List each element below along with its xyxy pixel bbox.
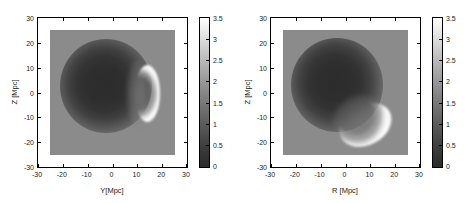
xticklabel-left-6: 30 — [182, 171, 190, 178]
xticklabel-right-1: -20 — [290, 171, 300, 178]
xtick-top-left-1 — [63, 18, 64, 21]
xtick-left-1 — [63, 164, 64, 167]
xtick-left-5 — [162, 164, 163, 167]
yticklabel-left-0: 30 — [16, 15, 34, 22]
ytick-left-3 — [38, 93, 41, 94]
cbar-tick-left-3 — [206, 81, 209, 82]
xticklabel-right-5: 20 — [390, 171, 398, 178]
ytick-left-5 — [38, 142, 41, 143]
xtick-top-right-4 — [370, 18, 371, 21]
ytick-right-2 — [271, 68, 274, 69]
cbar-tick-right-5 — [439, 124, 442, 125]
ytick-right-left-2 — [184, 68, 187, 69]
xtick-right-1 — [296, 164, 297, 167]
cbar-tick-right-6 — [439, 145, 442, 146]
xtick-left-2 — [88, 164, 89, 167]
xtick-right-5 — [395, 164, 396, 167]
yticklabel-right-2: 10 — [249, 64, 267, 71]
yticklabel-left-1: 20 — [16, 39, 34, 46]
xtick-top-right-3 — [346, 18, 347, 21]
ytick-left-4 — [38, 117, 41, 118]
xticklabel-right-4: 10 — [365, 171, 373, 178]
xtick-left-3 — [113, 164, 114, 167]
yticklabel-left-6: -30 — [16, 164, 34, 171]
cbarlabel-right-0: 3.5 — [446, 15, 456, 22]
cbar-tick-left-2 — [206, 60, 209, 61]
ytick-right-right-2 — [417, 68, 420, 69]
cbarlabel-left-0: 3.5 — [213, 15, 223, 22]
yticklabel-right-6: -30 — [249, 164, 267, 171]
cbarlabel-left-2: 2.5 — [213, 57, 223, 64]
xticklabel-left-3: 0 — [110, 171, 114, 178]
xticklabel-right-3: 0 — [343, 171, 347, 178]
cbar-tick-right-4 — [439, 103, 442, 104]
xtick-right-4 — [370, 164, 371, 167]
heatmap-image-left — [50, 30, 174, 154]
yaxis-title-left: Z [Mpc] — [10, 79, 19, 104]
xtick-top-right-5 — [395, 18, 396, 21]
xticklabel-left-1: -20 — [57, 171, 67, 178]
cbar-tick-left-1 — [206, 39, 209, 40]
xtick-top-left-2 — [88, 18, 89, 21]
plot-frame-right — [270, 17, 421, 168]
yticklabel-right-1: 20 — [249, 39, 267, 46]
cbarlabel-left-3: 2 — [213, 78, 217, 85]
panel-right: -30 -20 -10 0 10 20 30 30 20 10 0 -10 -2… — [233, 0, 466, 203]
xtick-right-2 — [321, 164, 322, 167]
xtick-top-right-1 — [296, 18, 297, 21]
cbarlabel-right-4: 1.5 — [446, 99, 456, 106]
xtick-right-0 — [271, 164, 272, 167]
cbar-tick-left-5 — [206, 124, 209, 125]
xticklabel-right-6: 30 — [415, 171, 423, 178]
xticklabel-right-2: -10 — [315, 171, 325, 178]
xtick-right-6 — [419, 164, 420, 167]
xticklabel-left-2: -10 — [82, 171, 92, 178]
xtick-top-left-5 — [162, 18, 163, 21]
xticklabel-left-5: 20 — [157, 171, 165, 178]
cbarlabel-right-3: 2 — [446, 78, 450, 85]
ytick-right-left-3 — [184, 93, 187, 94]
cbarlabel-left-4: 1.5 — [213, 99, 223, 106]
ytick-right-right-4 — [417, 117, 420, 118]
yticklabel-right-0: 30 — [249, 15, 267, 22]
plot-frame-left — [37, 17, 188, 168]
ytick-left-1 — [38, 43, 41, 44]
ytick-right-right-1 — [417, 43, 420, 44]
panel-left: -30 -20 -10 0 10 20 30 30 20 10 0 -10 -2… — [0, 0, 233, 203]
yticklabel-right-4: -10 — [249, 114, 267, 121]
xtick-top-left-4 — [137, 18, 138, 21]
cbarlabel-left-6: 0.5 — [213, 141, 223, 148]
xtick-top-left-3 — [113, 18, 114, 21]
ytick-right-4 — [271, 117, 274, 118]
ytick-right-left-4 — [184, 117, 187, 118]
xaxis-title-left: Y[Mpc] — [100, 186, 123, 195]
yticklabel-left-2: 10 — [16, 64, 34, 71]
cbar-tick-right-3 — [439, 81, 442, 82]
cbarlabel-left-7: 0 — [213, 163, 217, 170]
xticklabel-left-4: 10 — [132, 171, 140, 178]
xtick-right-3 — [346, 164, 347, 167]
xtick-left-4 — [137, 164, 138, 167]
ytick-right-1 — [271, 43, 274, 44]
figure-two-panel-heatmaps: -30 -20 -10 0 10 20 30 30 20 10 0 -10 -2… — [0, 0, 467, 203]
colorbar-left — [199, 17, 210, 168]
ytick-left-2 — [38, 68, 41, 69]
cbar-tick-right-2 — [439, 60, 442, 61]
ytick-right-left-5 — [184, 142, 187, 143]
xticklabel-left-0: -30 — [32, 171, 42, 178]
ytick-right-right-5 — [417, 142, 420, 143]
ytick-right-right-3 — [417, 93, 420, 94]
ytick-right-3 — [271, 93, 274, 94]
cbarlabel-right-2: 2.5 — [446, 57, 456, 64]
yticklabel-left-4: -10 — [16, 114, 34, 121]
xtick-left-6 — [186, 164, 187, 167]
cbarlabel-right-5: 1 — [446, 120, 450, 127]
cbarlabel-left-1: 3 — [213, 36, 217, 43]
cbar-tick-left-6 — [206, 145, 209, 146]
yticklabel-right-5: -20 — [249, 139, 267, 146]
cbarlabel-right-7: 0 — [446, 163, 450, 170]
heatmap-image-right — [283, 30, 407, 154]
yticklabel-left-5: -20 — [16, 139, 34, 146]
cbar-tick-left-4 — [206, 103, 209, 104]
ytick-right-left-1 — [184, 43, 187, 44]
